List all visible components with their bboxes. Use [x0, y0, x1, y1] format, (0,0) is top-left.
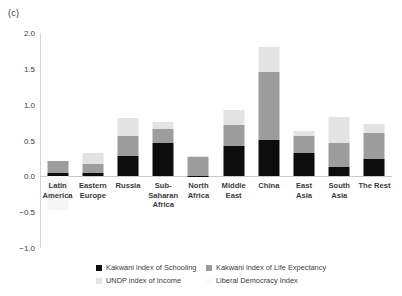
chart-legend: Kakwani index of SchoolingKakwani index …: [96, 261, 356, 287]
bar-stack-positive[interactable]: [364, 124, 385, 176]
bar-group[interactable]: [181, 33, 216, 248]
bar-segment[interactable]: [294, 153, 315, 177]
bar-segment[interactable]: [118, 156, 139, 177]
legend-label: UNDP index of Income: [106, 276, 181, 285]
x-axis-category-label: Middle East: [216, 181, 251, 210]
figure-panel-c: (c) −1.0−0.50.00.51.01.52.0 Latin Americ…: [0, 0, 402, 296]
bar-group[interactable]: [110, 33, 145, 248]
bar-segment[interactable]: [82, 164, 103, 173]
bar-stack-positive[interactable]: [82, 153, 103, 177]
bar-segment[interactable]: [188, 176, 209, 177]
x-axis-category-label: The Rest: [357, 181, 392, 210]
bar-group[interactable]: [40, 33, 75, 248]
plot-area: −1.0−0.50.00.51.01.52.0: [40, 33, 392, 248]
bar-stack-positive[interactable]: [294, 131, 315, 176]
x-axis-category-label: Sub-Saharan Africa: [146, 181, 181, 210]
bar-series-group: [40, 33, 392, 248]
x-axis-category-label: China: [251, 181, 286, 210]
y-tick-label: 2.0: [24, 29, 35, 38]
bar-stack-positive[interactable]: [258, 47, 279, 176]
bar-group[interactable]: [322, 33, 357, 248]
panel-label: (c): [8, 8, 19, 18]
x-axis-category-label: Russia: [110, 181, 145, 210]
bar-stack-positive[interactable]: [329, 117, 350, 176]
bar-segment[interactable]: [82, 173, 103, 177]
bar-segment[interactable]: [364, 124, 385, 133]
bar-stack-positive[interactable]: [188, 156, 209, 176]
bar-segment[interactable]: [153, 143, 174, 176]
bar-segment[interactable]: [82, 153, 103, 164]
x-axis-category-label: East Asia: [286, 181, 321, 210]
y-tick-label: 0.5: [24, 136, 35, 145]
legend-item[interactable]: Kakwani index of Life Expectancy: [206, 263, 356, 272]
bar-stack-positive[interactable]: [153, 122, 174, 176]
bar-stack-positive[interactable]: [118, 118, 139, 176]
y-tick-label: 1.5: [24, 64, 35, 73]
bar-group[interactable]: [75, 33, 110, 248]
bar-segment[interactable]: [329, 167, 350, 176]
x-axis-category-label: North Africa: [181, 181, 216, 210]
bar-stack-positive[interactable]: [223, 110, 244, 176]
bar-group[interactable]: [146, 33, 181, 248]
y-tick-label: −0.5: [19, 208, 35, 217]
legend-item[interactable]: Liberal Democracy Index: [206, 276, 356, 285]
legend-label: Kakwani index of Schooling: [106, 263, 196, 272]
bar-segment[interactable]: [329, 117, 350, 144]
y-tick-label: 1.0: [24, 100, 35, 109]
x-axis-category-label: South Asia: [322, 181, 357, 210]
x-axis-category-label: Latin America: [40, 181, 75, 210]
bar-segment[interactable]: [329, 143, 350, 167]
bar-stack-positive[interactable]: [47, 161, 68, 177]
bar-segment[interactable]: [223, 146, 244, 177]
bar-segment[interactable]: [118, 118, 139, 136]
bar-segment[interactable]: [47, 161, 68, 173]
bar-group[interactable]: [357, 33, 392, 248]
legend-swatch-icon: [96, 278, 102, 284]
bar-segment[interactable]: [364, 133, 385, 159]
bar-segment[interactable]: [188, 157, 209, 176]
legend-label: Liberal Democracy Index: [216, 276, 298, 285]
bar-segment[interactable]: [258, 140, 279, 177]
legend-item[interactable]: UNDP index of Income: [96, 276, 206, 285]
legend-item[interactable]: Kakwani index of Schooling: [96, 263, 206, 272]
bar-segment[interactable]: [153, 129, 174, 143]
bar-segment[interactable]: [364, 159, 385, 176]
bar-segment[interactable]: [118, 136, 139, 155]
bar-segment[interactable]: [223, 125, 244, 146]
bar-segment[interactable]: [258, 47, 279, 72]
bar-group[interactable]: [286, 33, 321, 248]
x-axis-category-labels: Latin AmericaEastern EuropeRussiaSub-Sah…: [40, 181, 392, 210]
legend-swatch-icon: [96, 265, 102, 271]
bar-segment[interactable]: [294, 136, 315, 152]
bar-group[interactable]: [251, 33, 286, 248]
bar-segment[interactable]: [223, 110, 244, 124]
bar-segment[interactable]: [153, 122, 174, 129]
legend-label: Kakwani index of Life Expectancy: [216, 263, 326, 272]
bar-segment[interactable]: [258, 72, 279, 139]
x-axis-category-label: Eastern Europe: [75, 181, 110, 210]
y-tick-label: −1.0: [19, 244, 35, 253]
legend-swatch-icon: [206, 278, 212, 284]
legend-swatch-icon: [206, 265, 212, 271]
y-tick-label: 0.0: [24, 172, 35, 181]
bar-group[interactable]: [216, 33, 251, 248]
